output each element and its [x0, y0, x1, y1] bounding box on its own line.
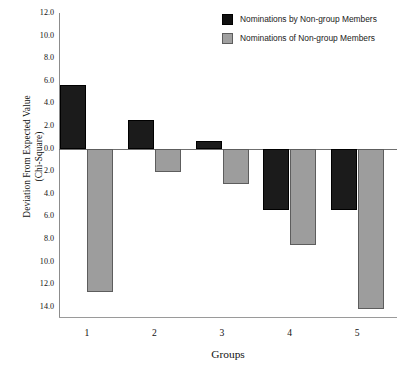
- y-tick-label: 10.0: [20, 32, 54, 40]
- x-tick-label: 3: [207, 327, 237, 338]
- x-tick-label: 4: [275, 327, 305, 338]
- y-tick-label: 10.0: [20, 258, 54, 266]
- x-tick-label: 2: [139, 327, 169, 338]
- y-tick-label: 4.0: [20, 190, 54, 198]
- y-tick-label: 14.0: [20, 303, 54, 311]
- y-tick-label: 6.0: [20, 77, 54, 85]
- y-tick-label: 2.0: [20, 167, 54, 175]
- x-axis-tick-labels: 12345: [59, 327, 397, 343]
- x-tick-label: 5: [342, 327, 372, 338]
- y-tick-label: 0.0: [20, 145, 54, 153]
- x-axis-title: Groups: [59, 348, 397, 361]
- legend-item: Nominations by Non-group Members: [222, 13, 377, 25]
- legend-label: Nominations of Non-group Members: [240, 33, 375, 44]
- bar: [331, 149, 357, 210]
- y-axis-line: [59, 13, 60, 318]
- bar: [155, 149, 181, 173]
- legend-swatch-icon: [222, 14, 233, 25]
- x-tick-label: 1: [72, 327, 102, 338]
- bar: [223, 149, 249, 184]
- y-tick-label: 8.0: [20, 235, 54, 243]
- bar: [263, 149, 289, 210]
- y-tick-label: 12.0: [20, 9, 54, 17]
- y-tick-label: 8.0: [20, 54, 54, 62]
- x-axis-line: [59, 317, 397, 318]
- legend-item: Nominations of Non-group Members: [222, 32, 375, 44]
- bar: [87, 149, 113, 292]
- plot-area: [59, 13, 397, 318]
- legend-swatch-icon: [222, 33, 233, 44]
- bar: [128, 120, 154, 148]
- chart-legend: Nominations by Non-group MembersNominati…: [222, 13, 404, 47]
- y-tick-label: 6.0: [20, 212, 54, 220]
- bar: [60, 85, 86, 148]
- bar: [358, 149, 384, 309]
- bar: [290, 149, 316, 245]
- bar: [196, 141, 222, 149]
- y-tick-label: 12.0: [20, 280, 54, 288]
- y-axis-tick-labels: 12.010.08.06.04.02.00.02.04.06.08.010.01…: [20, 0, 54, 374]
- bar-chart: Deviation From Expected Value (Chi-Squar…: [0, 0, 404, 374]
- y-tick-label: 2.0: [20, 122, 54, 130]
- legend-label: Nominations by Non-group Members: [240, 14, 377, 25]
- y-tick-label: 4.0: [20, 99, 54, 107]
